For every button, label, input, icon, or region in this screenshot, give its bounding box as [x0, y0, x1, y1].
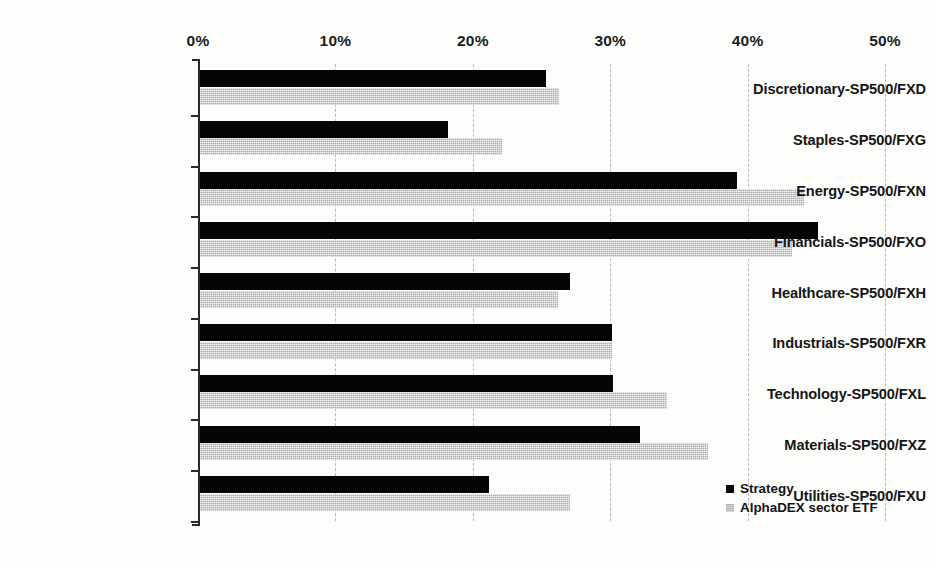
x-axis-tick-5: 50%	[869, 32, 901, 50]
legend-label-alphadex-etf: AlphaDEX sector ETF	[740, 501, 878, 516]
category-axis-top-cap	[192, 59, 200, 61]
bar-alphadex-etf-0	[198, 88, 559, 105]
bar-chart: 0%10%20%30%40%50% Discretionary-SP500/FX…	[0, 0, 936, 568]
x-axis-tick-0: 0%	[187, 32, 210, 50]
category-label-3: Financials-SP500/FXO	[746, 234, 936, 250]
bar-alphadex-etf-1	[198, 138, 502, 155]
legend-label-strategy: Strategy	[740, 482, 794, 497]
category-tick-3	[191, 267, 199, 269]
legend-item-strategy: Strategy	[726, 482, 878, 497]
bar-strategy-2	[198, 172, 737, 189]
bar-alphadex-etf-8	[198, 494, 570, 511]
bar-strategy-8	[198, 476, 489, 493]
x-axis-tick-3: 30%	[594, 32, 626, 50]
category-axis-bottom-cap	[192, 524, 200, 526]
category-tick-2	[191, 216, 199, 218]
legend-swatch-alphadex-etf-icon	[726, 504, 734, 512]
category-tick-7	[191, 470, 199, 472]
category-tick-1	[191, 166, 199, 168]
category-label-5: Industrials-SP500/FXR	[746, 335, 936, 351]
bar-alphadex-etf-6	[198, 392, 667, 409]
x-axis-tick-4: 40%	[732, 32, 764, 50]
category-tick-5	[191, 369, 199, 371]
x-axis-tick-1: 10%	[320, 32, 352, 50]
category-tick-6	[191, 419, 199, 421]
category-tick-8	[191, 521, 199, 523]
category-tick-4	[191, 318, 199, 320]
bar-strategy-6	[198, 375, 613, 392]
bar-alphadex-etf-7	[198, 443, 708, 460]
x-axis-tick-2: 20%	[457, 32, 489, 50]
chart-legend: Strategy AlphaDEX sector ETF	[726, 482, 878, 519]
category-label-4: Healthcare-SP500/FXH	[746, 285, 936, 301]
bar-alphadex-etf-3	[198, 240, 792, 257]
bar-alphadex-etf-4	[198, 291, 558, 308]
legend-swatch-strategy-icon	[726, 485, 734, 493]
category-label-7: Materials-SP500/FXZ	[746, 437, 936, 453]
category-label-2: Energy-SP500/FXN	[746, 183, 936, 199]
category-label-6: Technology-SP500/FXL	[746, 386, 936, 402]
category-axis-line	[198, 59, 200, 526]
bar-strategy-4	[198, 273, 570, 290]
bar-strategy-1	[198, 121, 448, 138]
category-label-1: Staples-SP500/FXG	[746, 132, 936, 148]
bar-strategy-0	[198, 70, 546, 87]
bar-strategy-3	[198, 222, 818, 239]
category-label-0: Discretionary-SP500/FXD	[746, 81, 936, 97]
category-tick-0	[191, 115, 199, 117]
bar-alphadex-etf-5	[198, 342, 612, 359]
bar-strategy-7	[198, 426, 640, 443]
bar-strategy-5	[198, 324, 612, 341]
bar-alphadex-etf-2	[198, 189, 804, 206]
legend-item-alphadex-etf: AlphaDEX sector ETF	[726, 501, 878, 516]
